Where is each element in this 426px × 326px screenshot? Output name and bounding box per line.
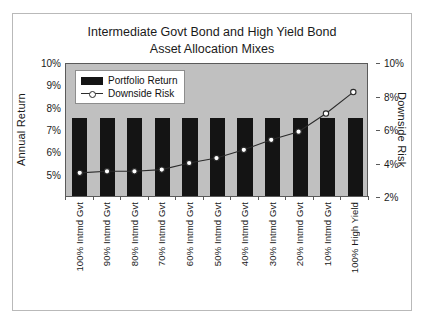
data-point-marker [159, 167, 164, 172]
data-point-marker [351, 89, 356, 94]
category-tick-mark [230, 196, 231, 200]
category-tick-mark [340, 196, 341, 200]
category-label: 70% Intmd Gvt [156, 202, 167, 266]
left-axis-tick-label: 9% [47, 80, 61, 91]
category-tick-mark [120, 196, 121, 200]
bar-swatch-icon [81, 77, 103, 85]
data-point-marker [104, 169, 109, 174]
data-point-marker [323, 111, 328, 116]
legend-label-portfolio-return: Portfolio Return [108, 75, 177, 86]
right-axis-ticks: 2%4%6%8%10% [374, 14, 408, 312]
category-tick-mark [285, 196, 286, 200]
category-tick-mark [258, 196, 259, 200]
category-label: 50% Intmd Gvt [212, 202, 223, 266]
category-tick-mark [368, 196, 369, 200]
left-axis-ticks: 5%6%7%8%9%10% [27, 14, 61, 312]
category-label: 100% Intmd Gvt [74, 202, 85, 272]
chart-frame: Intermediate Govt Bond and High Yield Bo… [12, 13, 412, 311]
right-axis-tick-mark [376, 197, 380, 198]
category-label: 60% Intmd Gvt [184, 202, 195, 266]
right-axis-tick-label: 10% [384, 58, 404, 69]
category-tick-mark [93, 196, 94, 200]
category-label: 10% Intmd Gvt [322, 202, 333, 266]
left-axis-tick-label: 5% [47, 169, 61, 180]
right-axis-tick-label: 8% [384, 91, 398, 102]
category-tick-mark [65, 196, 66, 200]
line-marker-swatch-icon [81, 90, 103, 98]
category-label: 80% Intmd Gvt [129, 202, 140, 266]
data-point-marker [77, 170, 82, 175]
left-axis-tick-label: 10% [41, 58, 61, 69]
right-axis-tick-mark [376, 130, 380, 131]
right-axis-tick-label: 6% [384, 125, 398, 136]
category-label: 90% Intmd Gvt [101, 202, 112, 266]
category-tick-mark [175, 196, 176, 200]
category-tick-mark [203, 196, 204, 200]
left-axis-tick-label: 8% [47, 102, 61, 113]
right-axis-tick-label: 2% [384, 192, 398, 203]
chart-legend: Portfolio Return Downside Risk [75, 70, 185, 104]
left-axis-title: Annual Return [15, 63, 27, 197]
data-point-marker [241, 147, 246, 152]
right-axis-tick-mark [376, 63, 380, 64]
legend-label-downside-risk: Downside Risk [108, 88, 174, 99]
right-axis-tick-mark [376, 97, 380, 98]
left-axis-tick-label: 6% [47, 147, 61, 158]
data-point-marker [296, 129, 301, 134]
category-tick-mark [313, 196, 314, 200]
data-point-marker [269, 137, 274, 142]
right-axis-tick-label: 4% [384, 158, 398, 169]
data-point-marker [214, 155, 219, 160]
legend-item-downside-risk: Downside Risk [81, 87, 177, 100]
legend-item-portfolio-return: Portfolio Return [81, 74, 177, 87]
category-label: 100% High Yield [349, 202, 360, 273]
category-label: 30% Intmd Gvt [267, 202, 278, 266]
data-point-marker [132, 169, 137, 174]
left-axis-tick-label: 7% [47, 125, 61, 136]
data-point-marker [186, 160, 191, 165]
chart-title: Intermediate Govt Bond and High Yield Bo… [13, 24, 411, 58]
category-label: 40% Intmd Gvt [239, 202, 250, 266]
category-label: 20% Intmd Gvt [294, 202, 305, 266]
right-axis-tick-mark [376, 164, 380, 165]
category-axis-labels: 100% Intmd Gvt90% Intmd Gvt80% Intmd Gvt… [65, 200, 368, 300]
category-tick-mark [148, 196, 149, 200]
